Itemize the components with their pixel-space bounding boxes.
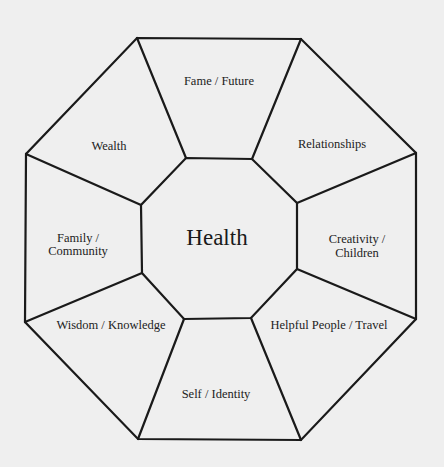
label-relationships: Relationships bbox=[298, 137, 366, 151]
bagua-diagram: Health Fame / Future Relationships Creat… bbox=[0, 0, 444, 467]
label-wisdom-knowledge: Wisdom / Knowledge bbox=[56, 318, 166, 332]
label-creativity-line2: Children bbox=[335, 246, 379, 260]
label-wealth: Wealth bbox=[91, 139, 127, 153]
label-helpful-people-travel: Helpful People / Travel bbox=[270, 318, 388, 332]
label-fame-future: Fame / Future bbox=[184, 74, 255, 88]
center-label-health: Health bbox=[186, 225, 248, 250]
label-creativity-line1: Creativity / bbox=[329, 232, 386, 246]
label-family-line1: Family / bbox=[57, 231, 100, 245]
label-self-identity: Self / Identity bbox=[182, 387, 251, 401]
label-family-line2: Community bbox=[48, 244, 108, 258]
